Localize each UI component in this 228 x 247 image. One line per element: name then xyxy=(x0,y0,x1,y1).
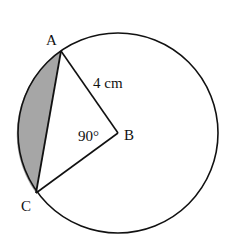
radius-ba xyxy=(61,51,118,133)
point-label-b: B xyxy=(124,127,134,143)
circle-diagram: A B C 4 cm 90° xyxy=(0,0,228,247)
diagram-canvas: A B C 4 cm 90° xyxy=(0,0,228,247)
radius-length-label: 4 cm xyxy=(93,75,123,91)
point-label-a: A xyxy=(46,32,57,48)
point-label-c: C xyxy=(21,198,31,214)
angle-label: 90° xyxy=(78,128,99,144)
radius-bc xyxy=(36,133,118,193)
